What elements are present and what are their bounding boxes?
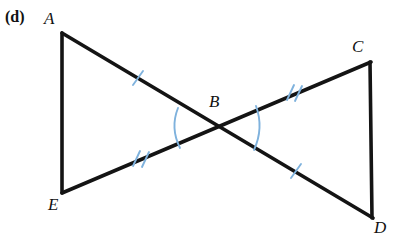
part-label: (d)	[5, 9, 25, 25]
vertex-label-B: B	[209, 93, 219, 110]
segment-CD	[370, 62, 372, 218]
figure-canvas	[0, 0, 395, 238]
vertex-label-A: A	[44, 10, 54, 27]
geometry-figure: (d) A B C D E	[0, 0, 395, 238]
segment-EC	[62, 62, 371, 193]
vertex-label-C: C	[352, 38, 363, 55]
vertex-label-E: E	[48, 196, 58, 213]
figure-lines	[62, 33, 373, 218]
vertex-label-D: D	[374, 219, 386, 236]
